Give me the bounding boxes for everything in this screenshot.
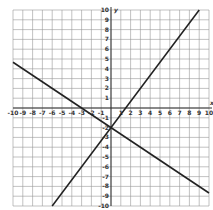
y-tick-label: -8 <box>102 182 109 189</box>
y-tick-label: 1 <box>105 94 109 101</box>
y-tick-label: 9 <box>105 16 109 23</box>
y-tick-label: 10 <box>101 6 109 13</box>
x-tick-label: 9 <box>197 109 201 116</box>
x-tick-label: 2 <box>129 109 133 116</box>
x-tick-label: -8 <box>29 109 36 116</box>
x-tick-label: 3 <box>138 109 142 116</box>
y-tick-label: -5 <box>102 153 109 160</box>
x-tick-label: 6 <box>168 109 172 116</box>
y-tick-label: 8 <box>105 26 109 33</box>
x-tick-label: 5 <box>158 109 162 116</box>
y-tick-label: -10 <box>98 202 109 209</box>
y-tick-label: 4 <box>105 65 109 72</box>
y-tick-label: -1 <box>102 114 109 121</box>
y-tick-label: 2 <box>105 84 109 91</box>
y-tick-label: 3 <box>105 75 109 82</box>
x-tick-label: -6 <box>49 109 56 116</box>
x-tick-label: 8 <box>187 109 191 116</box>
coordinate-plane: xy-10-9-8-7-6-5-4-3-2-112345678910109876… <box>0 0 213 210</box>
x-tick-label: 4 <box>148 109 152 116</box>
x-tick-label: -5 <box>59 109 66 116</box>
x-tick-label: -9 <box>19 109 26 116</box>
x-axis-label: x <box>209 99 213 106</box>
y-tick-label: 7 <box>105 35 109 42</box>
y-tick-label: 5 <box>105 55 109 62</box>
y-tick-label: -6 <box>102 163 109 170</box>
y-tick-label: 6 <box>105 45 109 52</box>
x-tick-label: 10 <box>205 109 213 116</box>
x-tick-label: -10 <box>8 109 19 116</box>
y-tick-label: -9 <box>102 192 109 199</box>
y-tick-label: -7 <box>102 173 109 180</box>
x-tick-label: 7 <box>178 109 182 116</box>
x-tick-label: -7 <box>39 109 46 116</box>
x-tick-label: -4 <box>68 109 75 116</box>
y-tick-label: -4 <box>102 143 109 150</box>
